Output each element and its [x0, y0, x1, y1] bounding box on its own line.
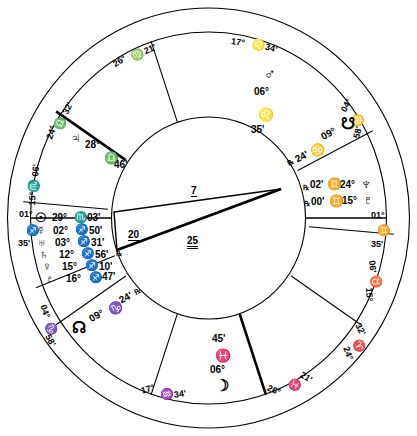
- retrograde-marker-neptune: ℞: [303, 184, 309, 191]
- planet-sign-moon: ♓: [215, 349, 231, 362]
- cusp-minute-2: 35': [18, 239, 30, 248]
- planet-degree-uranus: 03°: [55, 238, 70, 248]
- cusp-line-5: [240, 314, 266, 395]
- planet-degree-venus: 15°: [62, 262, 77, 272]
- planet-degree-neptune: 24°: [340, 180, 355, 190]
- planet-glyph-south-node: ☋: [341, 116, 355, 132]
- planet-sign-venus: ♐: [85, 260, 99, 271]
- planet-minute-pluto-sag: 47': [102, 272, 116, 282]
- cusp-minute-1: 06': [31, 164, 41, 177]
- cusp-sign-glyph-8: ♊: [377, 225, 391, 236]
- planet-minute-mercury: 50': [89, 226, 103, 236]
- planet-sign-pluto-sag: ♐: [89, 272, 103, 283]
- cusp-degree-10: 17°: [230, 37, 245, 48]
- planet-minute-jupiter: 46': [114, 160, 128, 170]
- planet-minute-moon: 45': [212, 334, 226, 344]
- planet-sign-mars: ♌: [258, 108, 274, 121]
- planet-glyph-pluto-gem: ♇: [362, 192, 374, 208]
- cusp-minute-4: 34': [173, 389, 186, 399]
- planet-minute-pluto-gem: 00': [311, 197, 325, 207]
- planet-degree-pluto-sag: 16°: [66, 274, 81, 284]
- planet-degree-mercury: 02°: [53, 226, 68, 236]
- cusp-line-4: [151, 314, 177, 395]
- planet-glyph-mars: ♂: [264, 66, 276, 82]
- planet-minute-neptune: 02': [310, 180, 324, 190]
- cusp-degree-1: 15°: [28, 192, 37, 206]
- planet-degree-jupiter: 28°: [85, 140, 100, 150]
- astrology-chart-wheel: 17° ♌ 34' 26° ♍ 21' 32' ♎ 24° 06' ♏ 15° …: [0, 0, 417, 436]
- cusp-line-6: [291, 276, 361, 325]
- cusp-degree-7: 15°: [364, 288, 373, 302]
- planet-sign-saturn: ♐: [81, 248, 95, 259]
- planet-degree-sun: 29°: [52, 213, 67, 223]
- cusp-line-10: [151, 41, 177, 122]
- planet-degree-pluto-gem: 15°: [342, 196, 357, 206]
- planet-sign-uranus: ♐: [77, 236, 91, 247]
- inner-figure-label-right: 25: [187, 236, 198, 249]
- planet-degree-mars: 06°: [254, 87, 269, 97]
- planet-minute-mars: 35': [251, 125, 265, 135]
- planet-sign-mercury: ♐: [75, 224, 89, 235]
- planet-glyph-pluto-sag: ♇: [45, 272, 55, 285]
- planet-glyph-jupiter: ♃: [70, 130, 81, 145]
- inner-figure-label-left: 20: [128, 230, 139, 241]
- cusp-minute-7: 06': [367, 260, 377, 273]
- inner-figure-label-top: 7: [191, 186, 197, 197]
- planet-sign-sun: ♏: [74, 212, 88, 223]
- planet-degree-saturn: 12°: [59, 250, 74, 260]
- planet-glyph-neptune: ♆: [360, 176, 372, 192]
- planet-glyph-north-node: ☊: [72, 320, 86, 336]
- planet-minute-sun: 03': [87, 213, 101, 223]
- retrograde-marker-venus: ℞: [116, 250, 122, 257]
- planet-glyph-moon: ☽: [215, 378, 229, 394]
- cusp-minute-8: 35': [371, 240, 383, 249]
- cusp-degree-2: 01°: [19, 210, 33, 219]
- retrograde-marker-pluto-gem: ℞: [304, 200, 310, 207]
- cusp-degree-8: 01°: [371, 211, 385, 220]
- planet-degree-moon: 06°: [210, 365, 225, 375]
